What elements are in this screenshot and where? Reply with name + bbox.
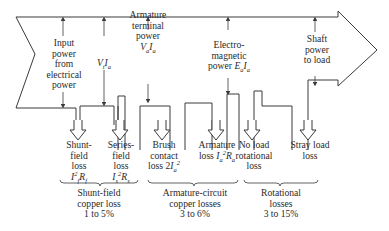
loss-arrows [70,120,316,140]
vt-ia-label: VtIa [92,58,116,69]
shunt-field-loss-label: Shunt-fieldlossI2fRf [60,140,98,182]
shunt-field-copper-loss-group: Shunt-fieldcopper loss1 to 5% [66,188,132,220]
armature-terminal-power-label: ArmatureterminalpowerVaIa [124,10,172,52]
stray-loss-arrow [300,120,316,140]
brush-contact-loss-label: Brushcontactloss 2Ia2 [146,140,182,172]
shaft-power-label: Shaftpowerto load [300,34,334,66]
no-load-rotational-loss-label: No loadrotationalloss [234,140,274,172]
stray-load-loss-label: Stray loadloss [288,140,332,161]
input-power-label: Inputpowerfromelectricalpower [44,38,84,91]
rotational-loss-arrow [244,120,260,140]
brace-armature-circuit [148,180,238,186]
rotational-losses-group: Rotationallosses3 to 15% [248,188,314,220]
electromagnetic-power-label: Electro-magneticpower EaIa [200,40,258,72]
brace-rotational [244,180,318,186]
armature-loss-arrow [208,120,224,140]
brush-loss-arrow [154,120,170,140]
series-field-loss-label: Series-fieldlossIs2Rs [102,140,140,182]
armature-circuit-copper-loss-group: Armature-circuitcopper losses3 to 6% [158,188,232,220]
shunt-loss-arrow [70,120,86,140]
